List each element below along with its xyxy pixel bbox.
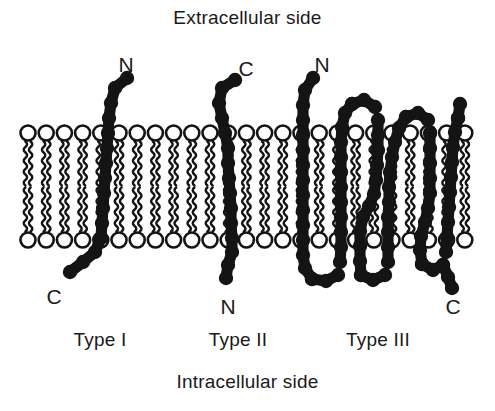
lipid-tail <box>175 142 178 186</box>
lipid-tail <box>320 142 323 186</box>
protein-type-label-type-ii: Type II <box>178 330 298 349</box>
phospholipid-inner <box>257 188 272 248</box>
amino-acid-bead <box>353 224 367 238</box>
lipid-head-icon <box>239 126 254 141</box>
lipid-tail <box>156 188 159 232</box>
amino-acid-bead <box>382 180 396 194</box>
phospholipid-outer <box>203 126 218 186</box>
lipid-tail <box>156 142 159 186</box>
phospholipid-outer <box>184 126 199 186</box>
amino-acid-bead <box>296 143 310 157</box>
amino-acid-bead <box>334 165 348 179</box>
phospholipid-inner <box>312 188 327 248</box>
amino-acid-bead <box>442 200 456 214</box>
amino-acid-bead <box>371 113 385 127</box>
type-ii-c-terminus-label: C <box>234 58 258 79</box>
phospholipid-inner <box>130 188 145 248</box>
protein-type-label-type-i: Type I <box>40 330 160 349</box>
lipid-head-icon <box>130 126 145 141</box>
amino-acid-bead <box>453 97 467 111</box>
lipid-tail <box>115 142 118 186</box>
amino-acid-bead <box>334 150 348 164</box>
lipid-tail <box>138 188 141 232</box>
amino-acid-bead <box>381 255 395 269</box>
phospholipid-inner <box>112 188 127 248</box>
lipid-head-icon <box>112 233 127 248</box>
amino-acid-bead <box>356 210 370 224</box>
lipid-head-icon <box>184 233 199 248</box>
lipid-tail <box>84 142 87 186</box>
lipid-tail <box>466 142 469 186</box>
amino-acid-bead <box>418 215 432 229</box>
phospholipid-inner <box>39 188 54 248</box>
amino-acid-bead <box>423 126 437 140</box>
amino-acid-bead <box>104 96 118 110</box>
lipid-tail <box>411 188 414 232</box>
amino-acid-bead <box>334 210 348 224</box>
lipid-head-icon <box>75 126 90 141</box>
lipid-head-icon <box>312 233 327 248</box>
lipid-tail <box>411 142 414 186</box>
phospholipid-outer <box>257 126 272 186</box>
phospholipid-inner <box>184 188 199 248</box>
amino-acid-bead <box>371 143 385 157</box>
amino-acid-bead <box>101 126 115 140</box>
amino-acid-bead <box>215 81 229 95</box>
amino-acid-bead <box>225 231 239 245</box>
intracellular-side-label: Intracellular side <box>0 372 495 391</box>
type-ii-protein <box>212 73 242 285</box>
phospholipid-outer <box>130 126 145 186</box>
lipid-tail <box>279 188 282 232</box>
amino-acid-bead <box>413 243 427 257</box>
phospholipid-outer <box>148 126 163 186</box>
membrane-protein-diagram: Extracellular side Intracellular side Ty… <box>0 0 495 411</box>
protein-type-label-type-iii: Type III <box>318 330 438 349</box>
lipid-tail <box>211 142 214 186</box>
phospholipid-inner <box>166 188 181 248</box>
amino-acid-bead <box>440 230 454 244</box>
lipid-tail <box>193 142 196 186</box>
amino-acid-bead <box>421 201 435 215</box>
lipid-tail <box>461 188 464 232</box>
lipid-tail <box>284 188 287 232</box>
amino-acid-bead <box>95 216 109 230</box>
lipid-tail <box>466 188 469 232</box>
lipid-tail <box>65 188 68 232</box>
lipid-tail <box>242 188 245 232</box>
phospholipid-outer <box>312 126 327 186</box>
amino-acid-bead <box>76 255 90 269</box>
phospholipid-outer <box>403 126 418 186</box>
amino-acid-bead <box>381 210 395 224</box>
type-iii-n-terminus-label: N <box>310 54 334 75</box>
amino-acid-bead <box>296 98 310 112</box>
amino-acid-bead <box>334 135 348 149</box>
lipid-tail <box>188 188 191 232</box>
phospholipid-outer <box>39 126 54 186</box>
lipid-tail <box>47 142 50 186</box>
lipid-tail <box>279 142 282 186</box>
lipid-head-icon <box>148 126 163 141</box>
lipid-tail <box>406 142 409 186</box>
lipid-tail <box>78 142 81 186</box>
lipid-tail <box>24 188 27 232</box>
type-ii-n-terminus-label: N <box>216 296 240 317</box>
lipid-head-icon <box>348 126 363 141</box>
lipid-head-icon <box>203 126 218 141</box>
lipid-tail <box>247 188 250 232</box>
lipid-head-icon <box>57 126 72 141</box>
extracellular-side-label: Extracellular side <box>0 8 495 27</box>
amino-acid-bead <box>371 128 385 142</box>
amino-acid-bead <box>296 158 310 172</box>
lipid-bilayer <box>21 126 473 248</box>
amino-acid-bead <box>88 245 102 259</box>
lipid-tail <box>115 188 118 232</box>
lipid-tail <box>206 142 209 186</box>
amino-acid-bead <box>305 272 319 286</box>
lipid-tail <box>315 142 318 186</box>
amino-acid-bead <box>421 113 435 127</box>
lipid-tail <box>133 188 136 232</box>
lipid-tail <box>260 142 263 186</box>
amino-acid-bead <box>331 268 345 282</box>
lipid-tail <box>151 188 154 232</box>
lipid-tail <box>406 188 409 232</box>
